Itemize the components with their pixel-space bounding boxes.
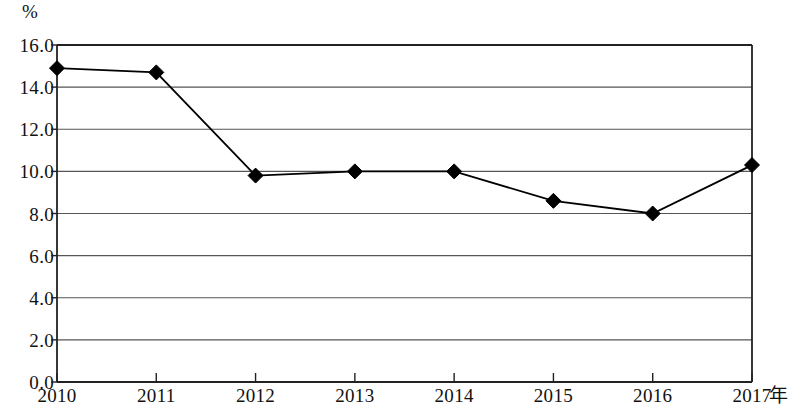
data-point-markers: 2010: 14.92011: 14.72012: 9.82013: 10201… <box>50 61 760 221</box>
plot-area: 2010: 14.92011: 14.72012: 9.82013: 10201… <box>0 0 807 412</box>
data-point-marker: 2013: 10 <box>347 164 362 179</box>
data-point-marker: 2016: 8 <box>645 206 660 221</box>
data-point-marker: 2015: 8.6 <box>546 193 561 208</box>
x-axis-ticks <box>57 373 752 382</box>
line-chart: % 16.014.012.010.08.06.04.02.00.0 201020… <box>0 0 807 412</box>
data-series-line <box>57 68 752 213</box>
data-point-marker: 2017: 10.3 <box>745 158 760 173</box>
data-point-marker: 2014: 10 <box>447 164 462 179</box>
data-point-marker: 2010: 14.9 <box>50 61 65 76</box>
